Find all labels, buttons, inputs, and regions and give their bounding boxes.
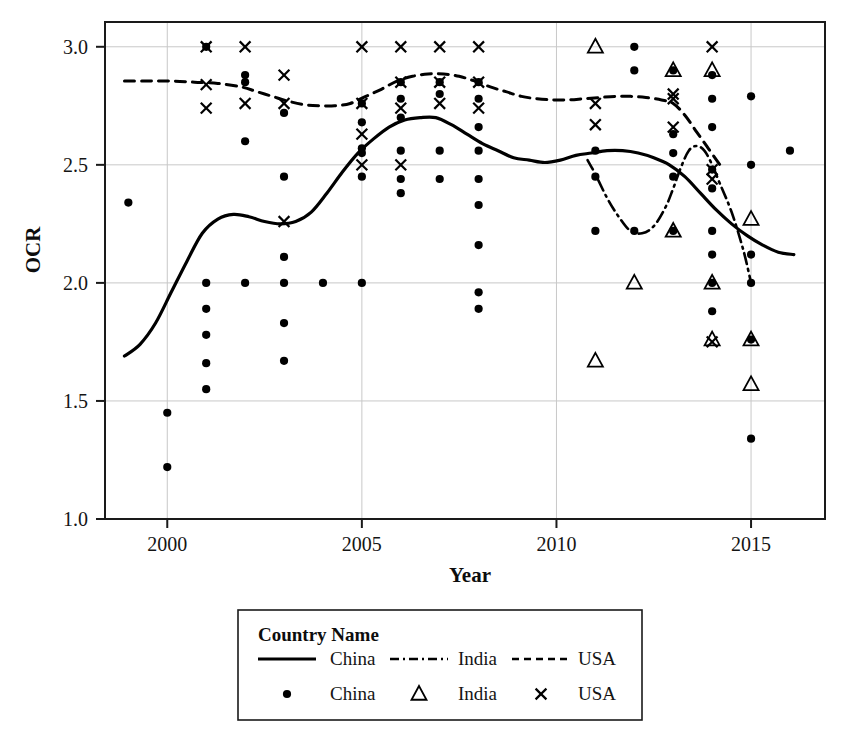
data-point-china — [747, 250, 755, 258]
data-point-usa — [590, 119, 601, 130]
data-point-usa — [201, 103, 212, 114]
data-point-china — [669, 173, 677, 181]
x-tick-label: 2005 — [342, 533, 382, 555]
data-point-china — [280, 279, 288, 287]
data-point-china — [241, 78, 249, 86]
data-point-china — [630, 43, 638, 51]
data-point-china — [358, 149, 366, 157]
legend-marker-label: India — [458, 683, 498, 704]
data-point-china — [280, 173, 288, 181]
x-tick-label: 2015 — [731, 533, 771, 555]
data-point-china — [708, 307, 716, 315]
data-point-china — [591, 227, 599, 235]
data-point-china — [202, 279, 210, 287]
data-point-china — [475, 241, 483, 249]
data-point-china — [591, 173, 599, 181]
data-point-usa — [590, 98, 601, 109]
data-point-china — [747, 161, 755, 169]
data-point-china — [436, 147, 444, 155]
y-axis-tick-labels: 1.01.52.02.53.0 — [63, 36, 88, 530]
data-point-china — [669, 149, 677, 157]
data-point-china — [202, 359, 210, 367]
data-point-india — [588, 353, 603, 367]
x-tick-label: 2010 — [536, 533, 576, 555]
data-point-china — [708, 95, 716, 103]
data-point-china — [358, 118, 366, 126]
data-point-china — [475, 147, 483, 155]
x-axis-tick-labels: 2000200520102015 — [147, 533, 771, 555]
legend-marker-label: China — [330, 683, 376, 704]
chart-legend: Country Name ChinaIndiaUSA ChinaIndiaUSA — [238, 610, 642, 720]
data-point-china — [475, 95, 483, 103]
data-point-china — [708, 227, 716, 235]
data-point-china — [397, 189, 405, 197]
data-point-china — [202, 385, 210, 393]
data-point-china — [358, 173, 366, 181]
trend-lines — [124, 74, 793, 356]
data-point-china — [358, 279, 366, 287]
trend-line-china — [124, 117, 793, 356]
legend-line-label: China — [330, 648, 376, 669]
data-point-china — [747, 92, 755, 100]
y-tick-label: 1.5 — [63, 390, 88, 412]
data-points — [124, 39, 794, 471]
x-axis-title: Year — [449, 563, 491, 587]
data-point-china — [397, 147, 405, 155]
data-point-usa — [240, 98, 251, 109]
data-point-usa — [434, 98, 445, 109]
data-point-usa — [201, 79, 212, 90]
data-point-china — [747, 279, 755, 287]
data-point-china — [163, 409, 171, 417]
gridlines — [105, 22, 825, 519]
data-point-china — [280, 109, 288, 117]
data-point-china — [280, 319, 288, 327]
data-point-china — [475, 305, 483, 313]
tick-marks — [96, 47, 751, 528]
legend-marker-label: USA — [578, 683, 616, 704]
legend-title: Country Name — [258, 624, 379, 645]
plot-frame — [105, 22, 825, 519]
chart-figure: 1.01.52.02.53.0 2000200520102015 OCR Yea… — [0, 0, 859, 754]
data-point-china — [202, 331, 210, 339]
data-point-china — [397, 175, 405, 183]
data-point-usa — [707, 174, 718, 185]
y-axis-title: OCR — [21, 226, 45, 274]
data-point-china — [708, 250, 716, 258]
data-point-usa — [279, 70, 290, 81]
data-point-china — [280, 357, 288, 365]
x-tick-label: 2000 — [147, 533, 187, 555]
y-tick-label: 2.5 — [63, 154, 88, 176]
data-point-china — [280, 253, 288, 261]
ocr-vs-year-scatter-plot: 1.01.52.02.53.0 2000200520102015 OCR Yea… — [0, 0, 859, 754]
data-point-china — [319, 279, 327, 287]
data-point-china — [124, 199, 132, 207]
data-point-china — [436, 90, 444, 98]
data-point-china — [241, 279, 249, 287]
data-point-china — [786, 147, 794, 155]
data-point-china — [436, 175, 444, 183]
data-point-china — [397, 95, 405, 103]
data-point-china — [475, 175, 483, 183]
y-tick-label: 3.0 — [63, 36, 88, 58]
data-point-china — [630, 227, 638, 235]
data-point-china — [163, 463, 171, 471]
data-point-china — [708, 184, 716, 192]
data-point-china — [475, 201, 483, 209]
data-point-china — [241, 137, 249, 145]
data-point-china — [630, 66, 638, 74]
data-point-china — [202, 305, 210, 313]
data-point-usa — [473, 103, 484, 114]
data-point-china — [708, 123, 716, 131]
data-point-china — [397, 114, 405, 122]
legend-marker-filled-circle — [283, 690, 291, 698]
data-point-china — [591, 147, 599, 155]
legend-line-label: India — [458, 648, 498, 669]
legend-line-label: USA — [578, 648, 616, 669]
data-point-china — [475, 288, 483, 296]
data-point-china — [241, 71, 249, 79]
data-point-china — [747, 435, 755, 443]
data-point-china — [708, 71, 716, 79]
data-point-india — [627, 275, 642, 289]
y-tick-label: 2.0 — [63, 272, 88, 294]
data-point-china — [475, 123, 483, 131]
